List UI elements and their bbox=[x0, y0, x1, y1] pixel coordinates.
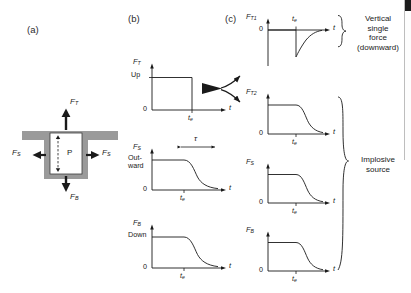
label-force-side-right: FS bbox=[102, 148, 111, 157]
b-fs-xlabel: t bbox=[229, 184, 231, 192]
c-fb-data-curve bbox=[268, 243, 323, 270]
label-force-side-left-subscript: S bbox=[17, 151, 21, 157]
b-fs-ydirection-line2: ward bbox=[128, 162, 144, 170]
x-axis-arrowhead-icon bbox=[221, 108, 226, 112]
b-fb-ydirection-label: Down bbox=[128, 231, 146, 239]
panel-letter-a: (a) bbox=[27, 24, 39, 35]
y-axis-arrowhead-icon bbox=[266, 164, 270, 169]
b-fb-ylabel: FB bbox=[133, 219, 141, 228]
x-axis-arrowhead-icon bbox=[325, 132, 330, 136]
c-fs-ylabel-subscript: S bbox=[251, 160, 254, 166]
page-edge-black-mark bbox=[405, 0, 411, 11]
x-axis-arrowhead-icon bbox=[221, 266, 226, 270]
b-fs-ylabel: FS bbox=[133, 143, 141, 152]
chamber-interior bbox=[50, 133, 82, 174]
brace-vertical-single-force bbox=[338, 15, 346, 46]
force-bottom-arrowhead-icon bbox=[62, 183, 71, 192]
c-ft1-xtick-label: te bbox=[292, 14, 297, 23]
b-ft-data-curve bbox=[152, 78, 192, 111]
b-fb-ylabel-subscript: B bbox=[138, 221, 141, 227]
chart-b-fs bbox=[150, 147, 226, 193]
c-ft1-xtick-subscript: e bbox=[294, 17, 297, 23]
b-ft-zero-label: 0 bbox=[143, 104, 147, 113]
c-ft2-xtick-label: te bbox=[292, 137, 297, 146]
c-ft1-xlabel: t bbox=[333, 24, 335, 32]
force-top-arrowhead-icon bbox=[62, 109, 71, 118]
c-fb-xtick-subscript: e bbox=[294, 277, 297, 283]
c-ft1-ylabel-subscript: T1 bbox=[251, 15, 257, 21]
b-ft-ylabel: FT bbox=[133, 58, 141, 67]
b-fs-zero-label: 0 bbox=[143, 184, 147, 193]
x-axis-arrowhead-icon bbox=[325, 269, 330, 273]
b-ft-xtick-subscript: e bbox=[190, 116, 193, 122]
c-fs-xtick-subscript: e bbox=[294, 209, 297, 215]
b-ft-xtick-label: te bbox=[188, 113, 193, 122]
y-axis-arrowhead-icon bbox=[150, 225, 154, 230]
b-fs-data-curve bbox=[152, 160, 218, 189]
b-ft-xlabel: t bbox=[229, 104, 231, 112]
b-fb-zero-label: 0 bbox=[143, 262, 147, 271]
panel-letter-c: (c) bbox=[225, 13, 236, 24]
brace-implosive-source bbox=[338, 97, 349, 270]
c-ft1-zero-label: 0 bbox=[259, 24, 263, 33]
c-fb-xlabel: t bbox=[333, 265, 335, 273]
y-axis-arrowhead-icon bbox=[266, 19, 270, 24]
b-fb-xtick-label: te bbox=[180, 271, 185, 280]
imp-line1: Implosive bbox=[349, 155, 407, 165]
x-axis-arrowhead-icon bbox=[325, 201, 330, 205]
brace-label-vertical-single-force: Vertical single force (downward) bbox=[349, 14, 407, 52]
b-fb-xlabel: t bbox=[229, 262, 231, 270]
split-arrow-branch-down bbox=[221, 90, 240, 102]
c-fb-xtick-label: te bbox=[292, 274, 297, 283]
c-fs-zero-label: 0 bbox=[259, 197, 263, 206]
b-fs-tau-annotation: τ bbox=[194, 134, 197, 143]
figure-canvas: (a) (b) (c) FT FS FS FB P FT Up 0 te t F… bbox=[0, 0, 411, 293]
x-axis-arrowhead-icon bbox=[221, 188, 226, 192]
c-ft1-ylabel: FT1 bbox=[246, 13, 257, 22]
vsf-line3: force bbox=[349, 33, 407, 43]
c-fs-ylabel: FS bbox=[246, 158, 254, 167]
y-axis-arrowhead-icon bbox=[266, 94, 270, 99]
x-axis-arrowhead-icon bbox=[325, 28, 330, 32]
label-force-side-right-subscript: S bbox=[107, 151, 111, 157]
vsf-line4: (downward) bbox=[349, 43, 407, 53]
b-fs-xtick-label: te bbox=[180, 193, 185, 202]
split-arrow-icon bbox=[202, 76, 240, 102]
page-edge-artifact bbox=[404, 0, 411, 160]
b-fb-data-curve bbox=[152, 237, 218, 267]
c-fb-ylabel-subscript: B bbox=[251, 228, 254, 234]
chart-b-fb bbox=[150, 225, 226, 272]
label-force-top-subscript: T bbox=[75, 100, 78, 106]
imp-line2: source bbox=[349, 165, 407, 175]
y-axis-arrowhead-icon bbox=[266, 232, 270, 237]
vsf-line2: single bbox=[349, 24, 407, 34]
chart-c-ft1 bbox=[266, 19, 330, 67]
c-ft2-data-curve bbox=[268, 105, 323, 133]
b-fs-xtick-subscript: e bbox=[182, 196, 185, 202]
c-ft2-xlabel: t bbox=[333, 128, 335, 136]
c-fb-ylabel: FB bbox=[246, 226, 254, 235]
force-side-right-arrowhead-icon bbox=[91, 151, 100, 159]
chart-c-fs bbox=[266, 164, 330, 207]
chart-c-ft2 bbox=[266, 94, 330, 138]
b-fs-ylabel-subscript: S bbox=[138, 145, 141, 151]
label-force-side-left: FS bbox=[12, 148, 21, 157]
chart-c-fb bbox=[266, 232, 330, 275]
label-force-bottom: FB bbox=[70, 192, 79, 201]
b-fb-xtick-subscript: e bbox=[182, 274, 185, 280]
c-ft2-ylabel-subscript: T2 bbox=[251, 90, 257, 96]
label-chamber-pressure: P bbox=[67, 148, 72, 157]
label-force-top: FT bbox=[70, 97, 78, 106]
c-fs-data-curve bbox=[268, 175, 323, 202]
c-ft2-xtick-subscript: e bbox=[294, 140, 297, 146]
c-fs-xlabel: t bbox=[333, 197, 335, 205]
panel-letter-b: (b) bbox=[128, 13, 140, 24]
vsf-line1: Vertical bbox=[349, 14, 407, 24]
c-ft2-ylabel: FT2 bbox=[246, 88, 257, 97]
force-side-left-arrowhead-icon bbox=[33, 151, 42, 159]
c-fb-zero-label: 0 bbox=[259, 265, 263, 274]
c-ft2-zero-label: 0 bbox=[259, 128, 263, 137]
c-fs-xtick-label: te bbox=[292, 206, 297, 215]
brace-label-implosive-source: Implosive source bbox=[349, 155, 407, 174]
split-arrow-branch-up bbox=[221, 76, 240, 88]
